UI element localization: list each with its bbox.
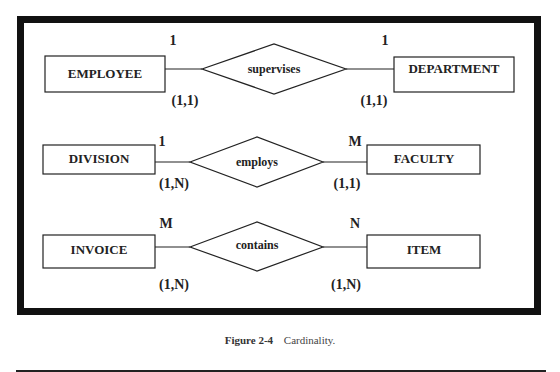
- cardinality-right: 1: [382, 33, 389, 48]
- relationship-contains-label: contains: [236, 238, 279, 252]
- entity-item-label: ITEM: [407, 242, 442, 257]
- relationship-row-3: INVOICE contains ITEM M N (1,N) (1,N): [43, 216, 480, 293]
- er-diagram: EMPLOYEE supervises DEPARTMENT 1 1 (1,1)…: [0, 0, 560, 372]
- cardinality-left: M: [159, 216, 172, 231]
- participation-left: (1,1): [172, 93, 199, 109]
- participation-right: (1,1): [334, 176, 361, 192]
- entity-department-label: DEPARTMENT: [408, 61, 499, 76]
- relationship-employs-label: employs: [236, 155, 278, 169]
- relationship-row-2: DIVISION employs FACULTY 1 M (1,N) (1,1): [43, 134, 480, 192]
- relationship-supervises-label: supervises: [248, 62, 301, 76]
- figure-caption: Figure 2-4 Cardinality.: [0, 334, 560, 346]
- entity-division-label: DIVISION: [69, 151, 130, 166]
- cardinality-right: N: [350, 216, 360, 231]
- figure-label: Figure 2-4: [225, 334, 273, 346]
- relationship-row-1: EMPLOYEE supervises DEPARTMENT 1 1 (1,1)…: [45, 33, 514, 109]
- entity-employee-label: EMPLOYEE: [68, 66, 142, 81]
- figure-title: Cardinality.: [284, 334, 336, 346]
- entity-faculty-label: FACULTY: [394, 151, 455, 166]
- participation-right: (1,N): [331, 277, 361, 293]
- participation-left: (1,N): [159, 176, 189, 192]
- cardinality-right: M: [348, 134, 361, 149]
- participation-left: (1,N): [159, 277, 189, 293]
- cardinality-left: 1: [170, 33, 177, 48]
- entity-invoice-label: INVOICE: [71, 242, 128, 257]
- participation-right: (1,1): [361, 93, 388, 109]
- cardinality-left: 1: [159, 134, 166, 149]
